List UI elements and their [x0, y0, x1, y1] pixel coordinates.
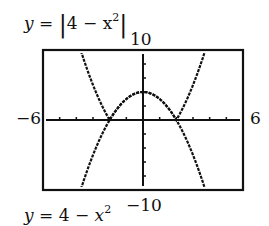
graph-window [0, 0, 269, 226]
